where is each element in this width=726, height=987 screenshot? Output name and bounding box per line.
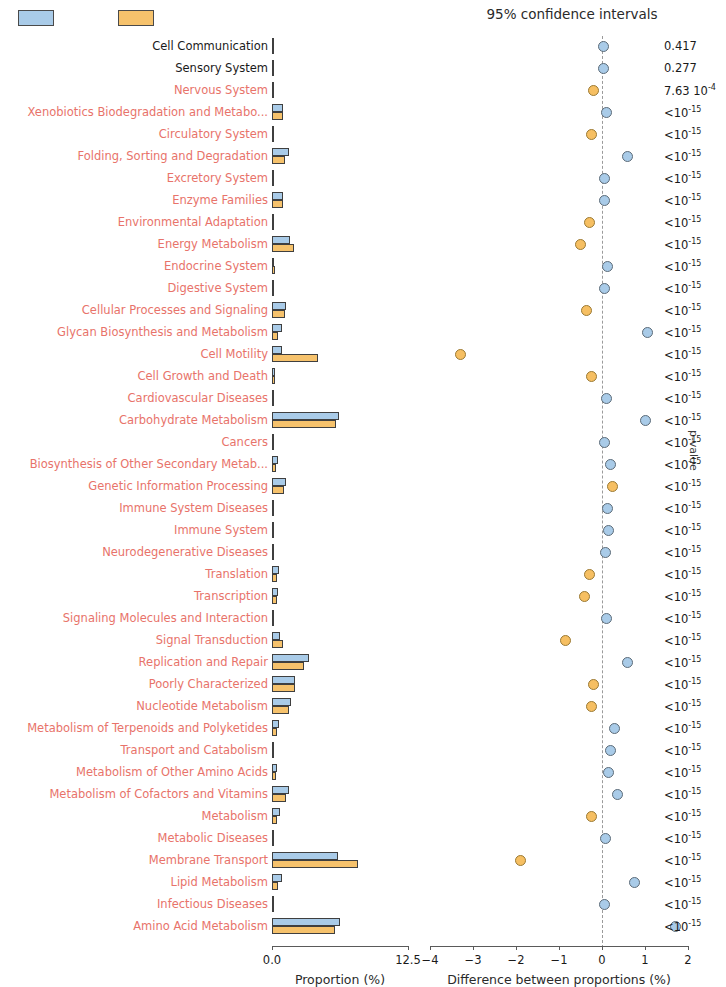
pvalue-label: 7.63 10-4: [664, 83, 716, 98]
bar-group-2: [272, 200, 283, 208]
chart-row: Energy Metabolism<10-15: [0, 234, 726, 256]
bar-group-1: [272, 852, 338, 860]
pvalue-mantissa: <10: [664, 524, 688, 538]
pvalue-mantissa: <10: [664, 370, 688, 384]
bar-group-1: [272, 302, 286, 310]
bar-pair: [272, 346, 318, 364]
bar-group-1: [272, 896, 274, 904]
pvalue-exponent: -15: [688, 809, 701, 818]
pvalue-exponent: -15: [688, 831, 701, 840]
bar-pair: [272, 170, 274, 188]
bar-group-1: [272, 566, 279, 574]
bar-group-2: [272, 486, 284, 494]
category-label: Immune System Diseases: [119, 501, 268, 515]
pvalue-mantissa: <10: [664, 216, 688, 230]
proportion-tick: [408, 946, 409, 950]
difference-dot: [586, 701, 597, 712]
pvalue-exponent: -15: [688, 105, 701, 114]
bar-pair: [272, 236, 294, 254]
pvalue-label: <10-15: [664, 897, 701, 912]
pvalue-label: <10-15: [664, 633, 701, 648]
difference-dot: [584, 217, 595, 228]
difference-dot: [605, 745, 616, 756]
bar-pair: [272, 764, 277, 782]
bar-group-1: [272, 830, 274, 838]
pvalue-label: <10-15: [664, 369, 701, 384]
pvalue-label: <10-15: [664, 853, 701, 868]
pvalue-exponent: -15: [688, 523, 701, 532]
pvalue-exponent: -15: [688, 281, 701, 290]
difference-tick: [559, 946, 560, 950]
pvalue-exponent: -15: [688, 721, 701, 730]
difference-dot: [584, 569, 595, 580]
bar-group-1: [272, 588, 278, 596]
bar-group-1: [272, 456, 278, 464]
bar-group-2: [272, 112, 283, 120]
chart-row: Amino Acid Metabolism<10-15: [0, 916, 726, 938]
bar-group-2: [272, 508, 274, 516]
pvalue-exponent: -15: [688, 171, 701, 180]
bar-group-2: [272, 816, 277, 824]
pvalue-label: <10-15: [664, 545, 701, 560]
difference-dot: [586, 129, 597, 140]
category-label: Genetic Information Processing: [88, 479, 268, 493]
difference-dot: [579, 591, 590, 602]
difference-tick: [645, 946, 646, 950]
pvalue-label: <10-15: [664, 699, 701, 714]
chart-row: Metabolism of Other Amino Acids<10-15: [0, 762, 726, 784]
bar-group-1: [272, 412, 339, 420]
bar-group-1: [272, 654, 309, 662]
pvalue-mantissa: <10: [664, 150, 688, 164]
category-label: Translation: [205, 567, 268, 581]
bar-group-1: [272, 522, 274, 530]
difference-dot: [602, 503, 613, 514]
difference-dot: [599, 195, 610, 206]
pvalue-exponent: -15: [688, 545, 701, 554]
chart-row: Xenobiotics Biodegradation and Metabo...…: [0, 102, 726, 124]
bar-group-1: [272, 676, 295, 684]
category-label: Replication and Repair: [139, 655, 268, 669]
pvalue-label: <10-15: [664, 787, 701, 802]
bar-group-2: [272, 574, 277, 582]
pvalue-mantissa: <10: [664, 854, 688, 868]
difference-axis-title: Difference between proportions (%): [418, 972, 700, 987]
chart-row: Translation<10-15: [0, 564, 726, 586]
category-label: Energy Metabolism: [158, 237, 268, 251]
chart-row: Glycan Biosynthesis and Metabolism<10-15: [0, 322, 726, 344]
pvalue-exponent: -4: [708, 83, 716, 92]
chart-row: Genetic Information Processing<10-15: [0, 476, 726, 498]
difference-dot: [601, 107, 612, 118]
bar-group-1: [272, 346, 282, 354]
chart-row: Cancers<10-15: [0, 432, 726, 454]
chart-row: Nucleotide Metabolism<10-15: [0, 696, 726, 718]
bar-group-1: [272, 148, 289, 156]
bar-pair: [272, 786, 289, 804]
pvalue-label: <10-15: [664, 831, 701, 846]
pvalue-label: <10-15: [664, 677, 701, 692]
pvalue-label: <10-15: [664, 655, 701, 670]
bar-group-1: [272, 104, 283, 112]
bar-group-1: [272, 720, 279, 728]
pvalue-exponent: -15: [688, 633, 701, 642]
bar-pair: [272, 192, 283, 210]
chart-row: Folding, Sorting and Degradation<10-15: [0, 146, 726, 168]
pvalue-exponent: -15: [688, 259, 701, 268]
category-label: Membrane Transport: [149, 853, 268, 867]
bar-group-2: [272, 178, 274, 186]
bar-pair: [272, 610, 274, 628]
bar-pair: [272, 82, 274, 100]
pvalue-mantissa: <10: [664, 766, 688, 780]
chart-row: Metabolic Diseases<10-15: [0, 828, 726, 850]
pvalue-label: <10-15: [664, 875, 701, 890]
bar-pair: [272, 368, 275, 386]
chart-row: Signal Transduction<10-15: [0, 630, 726, 652]
pvalue-mantissa: <10: [664, 392, 688, 406]
chart-row: Metabolism<10-15: [0, 806, 726, 828]
chart-row: Poorly Characterized<10-15: [0, 674, 726, 696]
bar-group-2: [272, 882, 278, 890]
pvalue-exponent: -15: [688, 765, 701, 774]
difference-dot: [586, 371, 597, 382]
bar-group-1: [272, 786, 289, 794]
pvalue-label: <10-15: [664, 457, 701, 472]
chart-row: Metabolism of Cofactors and Vitamins<10-…: [0, 784, 726, 806]
